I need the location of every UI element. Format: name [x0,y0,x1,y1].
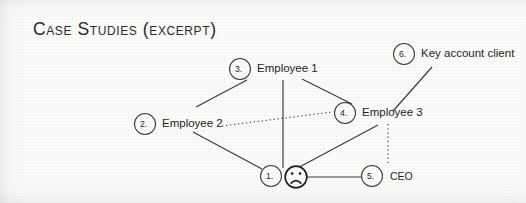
edge-employee3-key-account-client [393,67,432,111]
graph-edges [193,67,432,177]
diagram-page: Case Studies (excerpt) [0,0,526,203]
edge-employee2-employee1 [196,80,247,107]
node-number-6: 6. [399,49,406,59]
edge-employee3-node1 [292,125,378,171]
sad-face-icon [285,166,307,188]
node-number-2: 2. [140,119,147,129]
node-label-employee-2: Employee 2 [162,117,223,129]
node-label-key-account-client: Key account client [421,47,514,59]
edge-employee1-employee3 [302,79,352,104]
node-label-employee-1: Employee 1 [257,62,318,74]
node-label-ceo: CEO [390,170,413,182]
node-number-1: 1. [266,171,273,181]
edge-employee2-employee3-dotted [222,112,332,126]
node-number-3: 3. [235,64,242,74]
page-title: Case Studies (excerpt) [33,19,217,40]
node-label-employee-3: Employee 3 [362,106,423,118]
node-number-5: 5. [367,171,374,181]
node-number-4: 4. [340,108,347,118]
edge-employee2-node1 [193,132,262,169]
